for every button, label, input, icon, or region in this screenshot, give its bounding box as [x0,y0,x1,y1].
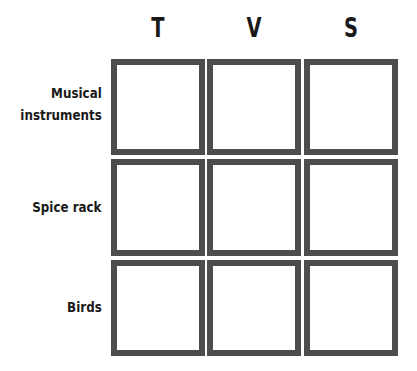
row-label-birds: Birds [67,296,102,318]
row-label-line: Spice rack [33,196,102,218]
grid-cell-r2-c3[interactable] [304,159,398,256]
column-header-s: S [317,12,385,43]
row-label-musical-instruments: Musical instruments [21,82,102,126]
grid-cell-r3-c3[interactable] [304,260,398,356]
row-label-spice-rack: Spice rack [33,196,102,218]
column-header-v: V [220,12,288,43]
row-label-line: Musical [21,82,102,104]
grid-cell-r3-c2[interactable] [207,260,301,356]
grid-cell-r1-c2[interactable] [207,59,301,155]
grid-cell-r2-c1[interactable] [111,159,205,256]
grid-cell-r1-c3[interactable] [304,59,398,155]
column-header-t: T [124,12,192,43]
grid-cell-r3-c1[interactable] [111,260,205,356]
grid-cell-r1-c1[interactable] [111,59,205,155]
row-label-line: instruments [21,104,102,126]
row-label-line: Birds [67,296,102,318]
grid-cell-r2-c2[interactable] [207,159,301,256]
